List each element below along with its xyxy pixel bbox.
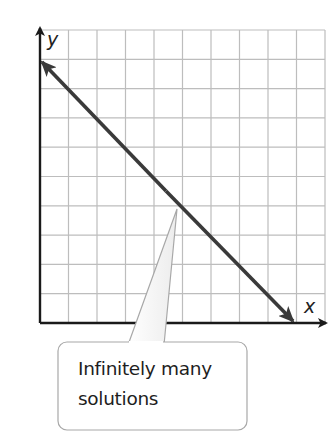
solution-line: [42, 62, 166, 191]
callout-line-2: solutions: [78, 384, 243, 414]
callout-line-1: Infinitely many: [78, 354, 243, 384]
graph-figure: y x Infinitely many solutions: [0, 0, 336, 432]
y-axis-label: y: [47, 28, 58, 50]
grid-lines: [40, 30, 325, 323]
callout-pointer: [128, 209, 177, 345]
x-axis-label: x: [304, 295, 315, 317]
callout-text: Infinitely many solutions: [78, 354, 243, 414]
solution-line-lower: [166, 191, 293, 321]
